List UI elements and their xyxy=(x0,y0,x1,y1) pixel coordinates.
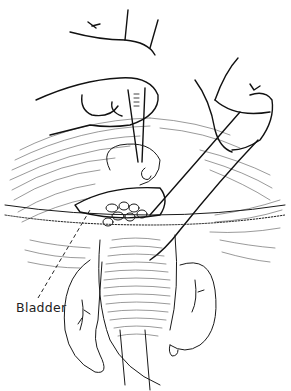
bladder-leader-line xyxy=(38,210,90,298)
tissue-hatching xyxy=(10,118,282,268)
left-vesicle xyxy=(64,260,104,372)
bladder-label: Bladder xyxy=(16,300,67,315)
illustration-canvas: Bladder xyxy=(0,0,291,391)
suture-loop xyxy=(107,144,160,185)
bladder-outline xyxy=(99,235,177,390)
surgical-drawing xyxy=(0,0,291,391)
incision-band xyxy=(5,205,285,225)
left-hand xyxy=(36,10,158,135)
right-hand xyxy=(150,58,273,260)
